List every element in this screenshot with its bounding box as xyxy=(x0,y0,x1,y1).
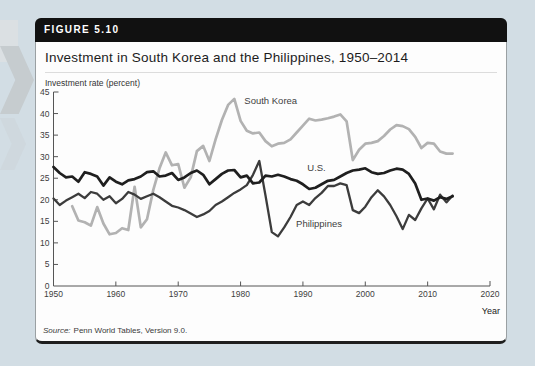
figure-title: Investment in South Korea and the Philip… xyxy=(45,50,495,65)
source-line: Source:Penn World Tables, Version 9.0. xyxy=(43,326,187,335)
page-background: FIGURE 5.10 Investment in South Korea an… xyxy=(0,0,535,366)
figure-number-label: FIGURE 5.10 xyxy=(44,24,119,35)
source-prefix: Source: xyxy=(43,326,71,335)
decor-chevron-arrow-2 xyxy=(0,118,26,170)
decor-chevron-arrow xyxy=(0,46,34,114)
source-text: Penn World Tables, Version 9.0. xyxy=(74,326,188,335)
figure-number-bar: FIGURE 5.10 xyxy=(35,18,507,42)
y-axis-title: Investment rate (percent) xyxy=(45,78,140,88)
x-axis-title: Year xyxy=(460,306,500,316)
figure-box xyxy=(35,18,507,344)
title-divider xyxy=(45,72,497,73)
